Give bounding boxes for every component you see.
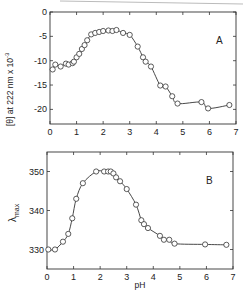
data-point [199,99,204,104]
x-tick-label: 6 [207,127,212,137]
data-point [206,106,211,111]
panel-b-fit-curve [48,171,226,250]
y-tick-label: -20 [34,104,47,114]
data-point [158,83,163,88]
panel-b-frame [47,152,233,269]
panel-b-y-axis-title: λmax [7,203,20,222]
x-tick-label: 6 [204,272,209,282]
panel-a-y-axis-superscript: -3 [4,52,10,58]
panel-a-y-axis-title-text: [θ] at 222 nm x 10 [5,58,15,126]
data-point [157,233,162,238]
panel-a: 01234567 0-5-10-15-20 A [θ] at 222 nm x … [4,7,239,137]
scan-edge-line [60,1,243,4]
data-point [60,239,65,244]
data-point [124,186,129,191]
x-tick-label: 5 [180,127,185,137]
chart-figure: 01234567 0-5-10-15-20 A [θ] at 222 nm x … [0,0,243,291]
data-point [203,242,208,247]
x-tick-label: 0 [47,127,52,137]
panel-a-fit-curve [53,30,230,109]
data-point [167,237,172,242]
data-point [101,28,106,33]
x-tick-label: 4 [151,272,156,282]
data-point [120,30,125,35]
data-point [70,216,75,221]
data-point [46,247,51,252]
data-point [53,62,58,67]
data-point [135,44,140,49]
x-tick-label: 5 [177,272,182,282]
data-point [227,102,232,107]
data-point [94,169,99,174]
panel-b: 01234567 330340350 B λmax pH [7,152,236,290]
data-point [143,59,148,64]
data-point [127,32,132,37]
panel-b-label: B [206,175,213,186]
x-tick-label: 3 [127,127,132,137]
panel-a-label: A [216,35,223,46]
x-tick-label: 3 [124,272,129,282]
panel-a-x-ticks: 01234567 [47,12,238,137]
data-point [80,181,85,186]
data-point [145,225,150,230]
x-tick-label: 4 [154,127,159,137]
data-point [74,196,79,201]
data-point [224,242,229,247]
data-point [58,64,63,69]
panel-b-x-axis-title: pH [135,280,146,290]
y-tick-label: -5 [39,31,47,41]
y-tick-label: -15 [34,80,47,90]
y-tick-label: -10 [34,56,47,66]
data-point [82,43,87,48]
data-point [141,222,146,227]
data-point [113,175,118,180]
y-tick-label: 350 [29,167,44,177]
data-point [77,51,82,56]
data-point [133,202,138,207]
panel-a-y-ticks: 0-5-10-15-20 [34,7,236,114]
data-point [175,101,180,106]
data-point [170,94,175,99]
x-tick-label: 1 [71,272,76,282]
data-point [66,231,71,236]
panel-b-y-axis-subscript: max [13,203,20,217]
x-tick-label: 7 [230,272,235,282]
data-point [148,64,153,69]
x-tick-label: 7 [233,127,238,137]
y-tick-label: 340 [29,206,44,216]
data-point [117,179,122,184]
x-tick-label: 1 [74,127,79,137]
data-point [114,27,119,32]
data-point [172,241,177,246]
data-point [52,247,57,252]
data-point [85,38,90,43]
x-tick-label: 2 [101,127,106,137]
x-tick-label: 2 [98,272,103,282]
panel-a-data-points [50,27,232,111]
panel-a-y-axis-title: [θ] at 222 nm x 10-3 [4,52,15,126]
x-tick-label: 0 [44,272,49,282]
y-tick-label: 330 [29,245,44,255]
data-point [50,67,55,72]
data-point [161,237,166,242]
data-point [163,84,168,89]
y-tick-label: 0 [42,7,47,17]
panel-b-data-points [46,169,229,252]
panel-b-y-ticks: 330340350 [29,167,233,255]
